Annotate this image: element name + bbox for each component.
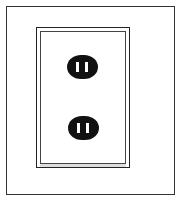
prong-slot-left [76, 62, 79, 72]
prong-slot-right [86, 123, 89, 133]
outlet-socket-top-icon [67, 55, 98, 79]
prong-slot-right [85, 62, 88, 72]
outlet-cover-plate [36, 27, 130, 168]
outlet-socket-bottom-icon [68, 116, 99, 140]
plate-inner-border [40, 31, 126, 164]
prong-slot-left [77, 123, 80, 133]
plate-bevel [40, 163, 126, 167]
